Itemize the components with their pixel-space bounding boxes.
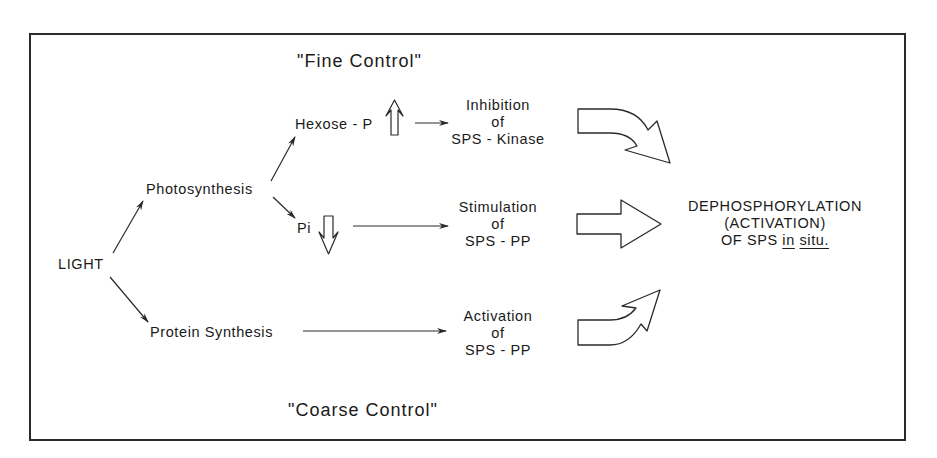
activation-line2: of [438,325,558,342]
inhibition-block: Inhibition of SPS - Kinase [438,97,558,148]
stimulation-line1: Stimulation [438,199,558,216]
activation-block: Activation of SPS - PP [438,308,558,359]
outcome-situ: situ. [799,232,829,248]
fine-control-heading: "Fine Control" [297,53,422,70]
stimulation-block: Stimulation of SPS - PP [438,199,558,250]
pi-node: Pi [297,220,311,237]
protein-synthesis-node: Protein Synthesis [150,324,273,341]
outcome-in: in [782,232,795,248]
inhibition-line2: of [438,114,558,131]
hexose-p-node: Hexose - P [295,116,373,133]
curved-arrow-down-right-icon [578,109,670,163]
outcome-block: DEPHOSPHORYLATION (ACTIVATION) OF SPS in… [685,198,865,249]
arrow-photosynthesis-to-pi [273,197,295,218]
photosynthesis-node: Photosynthesis [146,181,253,198]
stimulation-line2: of [438,216,558,233]
arrow-photosynthesis-to-hexose-p [271,137,295,181]
outcome-line2: (ACTIVATION) [685,215,865,232]
increase-up-arrow-icon [386,100,403,135]
light-node: LIGHT [58,256,104,273]
activation-line1: Activation [438,308,558,325]
decrease-down-arrow-icon [319,216,338,254]
activation-line3: SPS - PP [438,342,558,359]
inhibition-line3: SPS - Kinase [438,131,558,148]
stimulation-line3: SPS - PP [438,233,558,250]
outcome-prefix: OF SPS [721,232,778,248]
curved-arrow-up-right-icon [578,290,660,345]
arrow-light-to-photosynthesis [113,201,143,253]
inhibition-line1: Inhibition [438,97,558,114]
arrow-light-to-protein-synthesis [110,277,148,322]
straight-arrow-right-icon [577,200,661,248]
coarse-control-heading: "Coarse Control" [288,402,438,419]
outcome-line3: OF SPS in situ. [685,232,865,249]
outcome-line1: DEPHOSPHORYLATION [685,198,865,215]
